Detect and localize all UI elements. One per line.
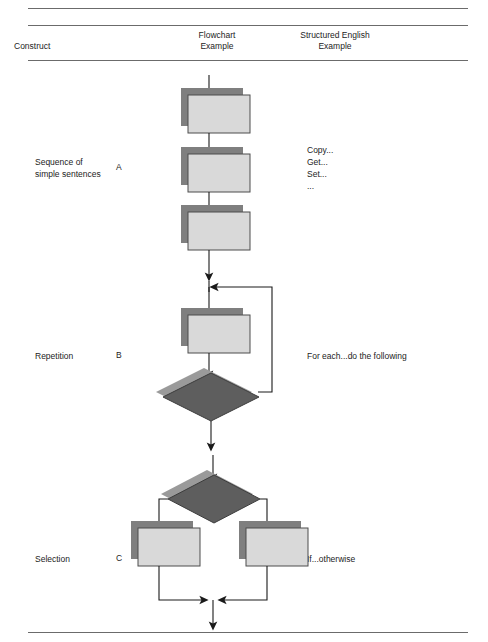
process-body	[138, 528, 200, 566]
process-node-c-left	[131, 521, 200, 566]
process-node-c-right	[239, 521, 308, 566]
process-body	[188, 95, 250, 133]
process-body	[188, 315, 250, 353]
decision-node-b1	[156, 368, 259, 421]
flowchart-repetition	[156, 281, 272, 447]
process-body	[188, 154, 250, 192]
process-node-a3	[181, 205, 250, 250]
merge-right-path	[222, 566, 267, 600]
decision-node-c1	[161, 470, 260, 523]
process-node-a1	[181, 88, 250, 133]
process-body	[246, 528, 308, 566]
flowchart-selection	[131, 455, 308, 626]
flowchart-sequence	[181, 75, 250, 277]
flowchart-diagrams	[0, 0, 488, 642]
decision-body	[168, 475, 260, 523]
process-body	[188, 212, 250, 250]
process-node-a2	[181, 147, 250, 192]
process-node-b1	[181, 308, 250, 353]
decision-body	[163, 373, 259, 421]
merge-left-path	[159, 566, 204, 600]
